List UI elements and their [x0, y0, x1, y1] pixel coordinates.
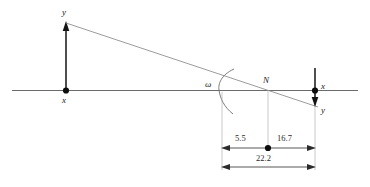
right-vertex-point	[312, 87, 318, 93]
left-axis-y-label: y	[62, 8, 66, 17]
left-axis-x-label: x	[62, 96, 66, 105]
left-vertex-point	[63, 87, 69, 93]
angle-arc	[219, 69, 234, 114]
ray-line	[66, 23, 318, 107]
dimension-upper-mid-point	[265, 145, 271, 151]
dimension-label-left-segment: 5.5	[235, 134, 246, 143]
dimension-lower-right-arrowhead	[307, 164, 316, 170]
dimension-upper-left-arrowhead	[221, 145, 230, 151]
dimension-label-total-span: 22.2	[256, 154, 271, 163]
right-axis-x-label: x	[321, 82, 325, 91]
dimension-label-right-segment: 16.7	[277, 134, 292, 143]
right-axis-y-label: y	[321, 106, 325, 115]
left-object-arrowhead	[63, 21, 70, 31]
dimension-upper-right-arrowhead	[307, 145, 316, 151]
diagram-vector-layer	[0, 0, 370, 187]
diagram-canvas: y x ω N x y 5.5 16.7 22.2	[0, 0, 370, 187]
node-label: N	[263, 76, 269, 85]
dimension-lower-left-arrowhead	[221, 164, 230, 170]
omega-angle-label: ω	[205, 80, 211, 89]
